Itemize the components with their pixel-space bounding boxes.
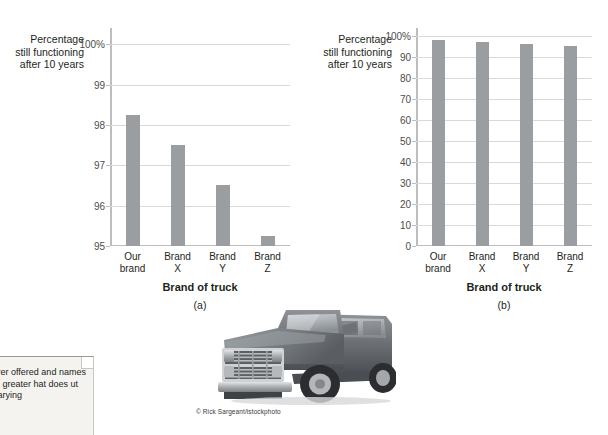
chart-a-tick-mark [106, 125, 110, 126]
chart-b-y-axis-title: Percentage still functioning after 10 ye… [300, 33, 392, 71]
chart-b-tick-mark [412, 246, 416, 247]
chart-b-tick-mark [412, 183, 416, 184]
chart-b-tick-mark [412, 120, 416, 121]
chart-a-y-axis-title: Percentage still functioning after 10 ye… [6, 33, 84, 71]
chart-b-category-label: Our brand [425, 251, 451, 275]
chart-a-y-tick-label: 100% [79, 39, 105, 50]
chart-a-category-label: Our brand [120, 251, 146, 275]
chart-b-tick-mark [412, 225, 416, 226]
chart-panel-a: Percentage still functioning after 10 ye… [0, 0, 300, 320]
chart-a-y-tick-label: 97 [94, 160, 105, 171]
chart-a-tick-mark [106, 246, 110, 247]
chart-a-bar [216, 185, 230, 246]
chart-b-y-tick-label: 20 [400, 199, 411, 210]
chart-a-tick-mark [106, 85, 110, 86]
callout-text: facturer offered and names much greater … [0, 357, 93, 402]
chart-b-tick-mark [412, 78, 416, 79]
chart-a-tick-mark [106, 165, 110, 166]
chart-a-tick-mark [106, 44, 110, 45]
callout-box: facturer offered and names much greater … [0, 356, 94, 435]
chart-b-tick-mark [412, 57, 416, 58]
chart-b-category-label: Brand X [469, 251, 496, 275]
chart-a-category-label: Brand Z [254, 251, 281, 275]
chart-b-tick-mark [412, 204, 416, 205]
chart-b-y-tick-label: 50 [400, 136, 411, 147]
chart-a-y-tick-label: 95 [94, 241, 105, 252]
chart-b-plot-area: 0102030405060708090100%Our brandBrand XB… [416, 28, 592, 246]
chart-b-y-tick-label: 70 [400, 94, 411, 105]
chart-b-y-axis-line [416, 28, 418, 246]
chart-b-gridline [416, 36, 592, 37]
chart-b-bar [564, 46, 577, 246]
chart-a-gridline [110, 85, 290, 86]
chart-b-tick-mark [412, 141, 416, 142]
chart-b-y-tick-label: 90 [400, 52, 411, 63]
chart-b-category-label: Brand Z [557, 251, 584, 275]
chart-b-tick-mark [412, 36, 416, 37]
chart-b-y-tick-label: 60 [400, 115, 411, 126]
chart-a-y-axis-line [110, 28, 112, 246]
chart-b-y-tick-label: 0 [405, 241, 411, 252]
chart-b-y-tick-label: 30 [400, 178, 411, 189]
callout-fold-corner [81, 357, 93, 369]
chart-a-y-tick-label: 96 [94, 200, 105, 211]
photo-credit: © Rick Sargeant/istockphoto [196, 408, 281, 415]
chart-a-gridline [110, 44, 290, 45]
chart-a-bar [261, 236, 275, 246]
chart-a-bar [171, 145, 185, 246]
chart-a-bar [126, 115, 140, 246]
chart-b-panel-label: (b) [416, 299, 592, 311]
chart-panel-b: Percentage still functioning after 10 ye… [300, 0, 608, 320]
chart-b-bar [520, 44, 533, 246]
chart-b-bar [476, 42, 489, 246]
chart-b-y-tick-label: 100% [385, 31, 411, 42]
chart-b-tick-mark [412, 99, 416, 100]
chart-a-y-tick-label: 99 [94, 79, 105, 90]
chart-b-y-tick-label: 80 [400, 73, 411, 84]
chart-b-category-label: Brand Y [513, 251, 540, 275]
chart-b-x-axis-title: Brand of truck [416, 281, 592, 293]
truck-photo [216, 288, 396, 406]
chart-b-y-tick-label: 40 [400, 157, 411, 168]
chart-b-y-tick-label: 10 [400, 220, 411, 231]
chart-a-plot-area: 9596979899100%Our brandBrand XBrand YBra… [110, 28, 290, 246]
chart-b-bar [432, 40, 445, 246]
chart-a-category-label: Brand Y [209, 251, 236, 275]
chart-a-category-label: Brand X [164, 251, 191, 275]
chart-a-tick-mark [106, 206, 110, 207]
chart-a-y-tick-label: 98 [94, 119, 105, 130]
chart-b-tick-mark [412, 162, 416, 163]
